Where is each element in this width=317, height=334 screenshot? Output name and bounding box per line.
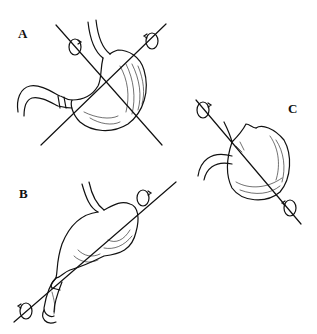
panel-a-illustration bbox=[18, 20, 167, 145]
panel-b-illustration bbox=[14, 182, 176, 323]
figure-canvas bbox=[0, 0, 317, 334]
axis-line bbox=[14, 182, 176, 322]
panel-c-illustration bbox=[196, 100, 301, 224]
axis-line bbox=[41, 24, 166, 145]
